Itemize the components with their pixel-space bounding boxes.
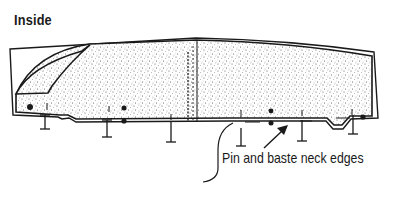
garment-diagram xyxy=(0,0,400,199)
fabric-body xyxy=(16,40,372,125)
callout-arrow-shaft xyxy=(264,131,282,148)
callout-label: Pin and baste neck edges xyxy=(222,149,364,166)
